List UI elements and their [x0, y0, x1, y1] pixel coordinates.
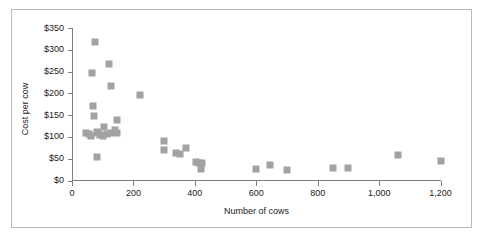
x-tick-label: 200: [126, 189, 141, 198]
data-point: [394, 152, 401, 159]
x-tick-mark: [441, 181, 442, 186]
x-tick-mark: [318, 181, 319, 186]
y-tick-mark: [68, 137, 73, 138]
data-point: [345, 165, 352, 172]
data-point: [114, 116, 121, 123]
x-tick-mark: [72, 181, 73, 186]
data-point: [267, 162, 274, 169]
x-tick-label: 400: [187, 189, 202, 198]
y-tick-mark: [68, 28, 73, 29]
data-point: [177, 151, 184, 158]
x-tick-label: 600: [249, 189, 264, 198]
x-tick-mark: [133, 181, 134, 186]
data-point: [89, 102, 96, 109]
data-point: [136, 92, 143, 99]
scatter-chart-figure: $0$50$100$150$200$250$300$350 0200400600…: [0, 0, 483, 239]
data-point: [92, 39, 99, 46]
y-tick-mark: [68, 50, 73, 51]
y-tick-mark: [68, 115, 73, 116]
data-point: [108, 129, 115, 136]
data-point: [161, 147, 168, 154]
x-tick-label: 1,200: [429, 189, 452, 198]
x-tick-mark: [379, 181, 380, 186]
data-point: [183, 145, 190, 152]
data-point: [108, 83, 115, 90]
y-tick-label: $100: [44, 132, 64, 141]
data-point: [284, 167, 291, 174]
y-tick-label: $300: [44, 45, 64, 54]
x-tick-mark: [195, 181, 196, 186]
y-tick-label: $250: [44, 67, 64, 76]
data-point: [253, 165, 260, 172]
y-tick-label: $150: [44, 111, 64, 120]
y-tick-label: $350: [44, 24, 64, 33]
y-axis-label: Cost per cow: [20, 69, 30, 149]
data-point: [160, 138, 167, 145]
data-point: [198, 165, 205, 172]
x-tick-label: 800: [310, 189, 325, 198]
data-point: [88, 70, 95, 77]
plot-area: $0$50$100$150$200$250$300$350 0200400600…: [0, 0, 483, 239]
x-tick-label: 1,000: [368, 189, 391, 198]
y-tick-label: $200: [44, 89, 64, 98]
x-tick-mark: [256, 181, 257, 186]
x-tick-label: 0: [69, 189, 74, 198]
y-tick-label: $50: [49, 154, 64, 163]
data-point: [90, 113, 97, 120]
y-tick-mark: [68, 93, 73, 94]
data-point: [437, 157, 444, 164]
y-tick-mark: [68, 159, 73, 160]
data-point: [93, 153, 100, 160]
y-tick-mark: [68, 72, 73, 73]
data-point: [105, 60, 112, 67]
data-point: [330, 164, 337, 171]
x-axis-label: Number of cows: [72, 206, 441, 216]
y-tick-label: $0: [54, 176, 64, 185]
